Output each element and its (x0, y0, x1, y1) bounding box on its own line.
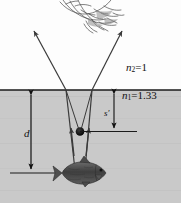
figure-canvas (0, 0, 181, 203)
label-depth: d (24, 128, 30, 139)
label-n1: n1=1.33 (122, 90, 157, 102)
optics-refraction-figure: n2=1 n1=1.33 d s′ (0, 0, 181, 203)
label-image-distance: s′ (104, 109, 109, 118)
label-n1-value: 1.33 (137, 89, 156, 101)
label-n2: n2=1 (126, 62, 147, 74)
label-n2-value: 1 (141, 61, 147, 73)
fish-eye (100, 169, 103, 172)
